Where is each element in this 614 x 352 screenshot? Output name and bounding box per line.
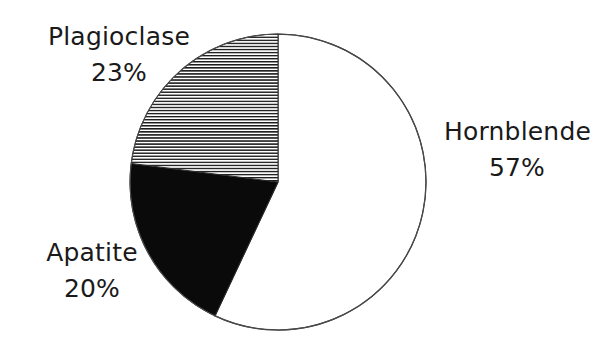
pie-label-apatite-value: 20% (24, 274, 160, 304)
pie-label-hornblende: Hornblende 57% (444, 117, 590, 182)
pie-label-plagioclase-name: Plagioclase (30, 22, 208, 52)
pie-label-apatite-name: Apatite (24, 238, 160, 268)
pie-label-hornblende-value: 57% (444, 153, 590, 183)
pie-label-plagioclase-value: 23% (30, 58, 208, 88)
pie-label-plagioclase: Plagioclase 23% (30, 22, 208, 87)
pie-label-apatite: Apatite 20% (24, 238, 160, 303)
pie-chart-figure: Plagioclase 23% Apatite 20% Hornblende 5… (0, 0, 614, 352)
pie-label-hornblende-name: Hornblende (444, 117, 590, 147)
